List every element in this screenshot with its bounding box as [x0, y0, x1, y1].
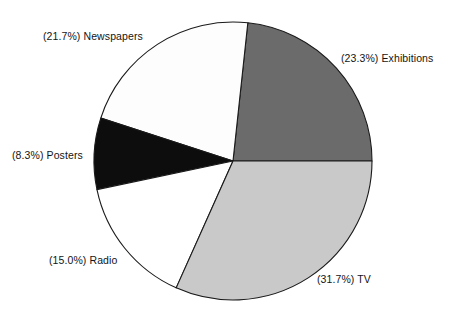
pie-label-exhibitions: (23.3%) Exhibitions [341, 53, 433, 64]
pie-chart-figure: (21.7%) Newspapers (23.3%) Exhibitions (… [0, 0, 455, 317]
pie-label-radio: (15.0%) Radio [49, 255, 117, 266]
pie-label-tv: (31.7%) TV [317, 274, 371, 285]
pie-slice-group [94, 22, 372, 300]
pie-slice-exhibitions [233, 23, 372, 161]
pie-label-posters: (8.3%) Posters [12, 150, 83, 161]
pie-label-newspapers: (21.7%) Newspapers [43, 31, 143, 42]
